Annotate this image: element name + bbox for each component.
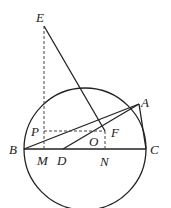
segment-BA: [24, 104, 139, 149]
segment-AC: [139, 104, 146, 149]
label-D: D: [56, 153, 67, 168]
circle: [24, 88, 146, 208]
label-B: B: [9, 142, 17, 157]
label-F: F: [110, 125, 120, 140]
label-E: E: [35, 10, 44, 25]
label-O: O: [89, 134, 99, 149]
label-P: P: [30, 124, 39, 139]
label-A: A: [140, 95, 149, 110]
label-N: N: [99, 154, 110, 169]
geometry-diagram: E A P F O B C M D N: [0, 0, 171, 208]
label-C: C: [150, 142, 159, 157]
segment-EF: [44, 26, 105, 131]
label-M: M: [36, 153, 49, 168]
segment-DA: [63, 104, 139, 149]
